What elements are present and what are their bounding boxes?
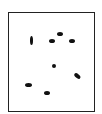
ellipse-1 [30, 36, 33, 45]
ellipse-3 [57, 32, 63, 36]
ellipse-4 [69, 39, 75, 43]
ellipse-5 [52, 64, 56, 68]
ellipse-8 [44, 91, 50, 95]
ellipse-7 [25, 83, 32, 87]
diagram-frame [8, 12, 95, 112]
ellipse-2 [49, 39, 55, 43]
